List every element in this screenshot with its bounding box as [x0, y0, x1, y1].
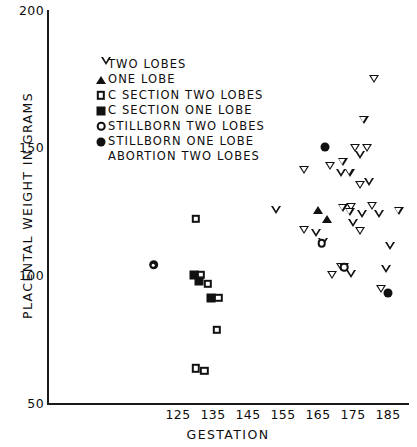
triangle-down-open-icon — [355, 181, 365, 189]
square-open-icon — [214, 294, 222, 302]
chart-legend: TWO LOBESONE LOBEC SECTION TWO LOBESC SE… — [94, 57, 265, 165]
triangle-down-open-icon — [327, 271, 337, 279]
legend-item-label: C SECTION ONE LOBE — [108, 105, 253, 117]
circle-filled-icon — [94, 135, 108, 149]
triangle-down-open-icon — [325, 162, 335, 170]
triangle-down-open-icon — [362, 144, 372, 152]
y-axis-line — [47, 10, 49, 405]
square-open-icon — [191, 364, 199, 372]
square-filled-icon — [94, 104, 108, 118]
triangle-down-open-icon — [355, 227, 365, 235]
square-filled-icon — [195, 277, 204, 286]
triangle-down-open-icon — [299, 166, 309, 174]
y-axis-title: PLACENTAL WEIGHT IN GRAMS — [20, 86, 35, 326]
y-tick-label-200: 200 — [4, 3, 44, 18]
x-tick-label-185: 185 — [368, 407, 408, 422]
triangle-down-open-icon — [385, 242, 395, 250]
legend-item-label: ONE LOBE — [108, 74, 176, 86]
circle-open-icon — [317, 239, 326, 248]
legend-item-c-section-two-lobes: C SECTION TWO LOBES — [94, 88, 265, 103]
triangle-down-open-icon — [367, 202, 377, 210]
triangle-down-open-icon — [94, 58, 108, 72]
triangle-down-open-icon — [299, 226, 309, 234]
triangle-down-open-icon — [338, 204, 348, 212]
circle-open-icon — [340, 263, 349, 272]
x-tick-label-145: 145 — [228, 407, 268, 422]
legend-item-label: TWO LOBES — [108, 59, 187, 71]
legend-item-one-lobe: ONE LOBE — [94, 72, 265, 87]
triangle-down-open-icon — [381, 265, 391, 273]
x-axis-line — [47, 403, 409, 405]
triangle-down-open-icon — [359, 116, 369, 124]
x-axis-title: GESTATION — [47, 427, 409, 442]
triangle-down-open-icon — [346, 203, 356, 211]
square-filled-icon — [207, 294, 216, 303]
triangle-down-open-icon — [374, 210, 384, 218]
x-tick-label-165: 165 — [298, 407, 338, 422]
square-open-icon — [200, 367, 208, 375]
triangle-down-open-icon — [336, 169, 346, 177]
triangle-down-open-icon — [338, 158, 348, 166]
triangle-down-open-icon — [345, 169, 355, 177]
triangle-down-open-icon — [346, 270, 356, 278]
triangle-down-open-icon — [350, 144, 360, 152]
legend-item-stillborn-two-lobes: STILLBORN TWO LOBES — [94, 119, 265, 134]
triangle-down-open-icon — [271, 206, 281, 214]
x-tick-label-125: 125 — [158, 407, 198, 422]
x-tick-label-155: 155 — [263, 407, 303, 422]
triangle-down-open-icon — [364, 178, 374, 186]
circle-dot-icon — [94, 150, 108, 164]
legend-item-label: STILLBORN TWO LOBES — [108, 121, 265, 133]
triangle-up-filled-icon — [94, 73, 108, 87]
triangle-up-filled-icon — [322, 215, 332, 223]
circle-filled-icon — [321, 143, 330, 152]
triangle-down-open-icon — [345, 208, 355, 216]
legend-item-abortion-two-lobes: ABORTION TWO LOBES — [94, 149, 265, 164]
x-tick-label-175: 175 — [333, 407, 373, 422]
triangle-down-open-icon — [339, 263, 349, 271]
legend-item-c-section-one-lobe: C SECTION ONE LOBE — [94, 103, 265, 118]
square-open-icon — [94, 88, 108, 102]
triangle-down-open-icon — [357, 210, 367, 218]
circle-dot-icon — [149, 260, 159, 270]
square-open-icon — [191, 214, 199, 222]
legend-item-two-lobes: TWO LOBES — [94, 57, 265, 72]
legend-item-stillborn-one-lobe: STILLBORN ONE LOBE — [94, 134, 265, 149]
square-open-icon — [204, 280, 212, 288]
square-filled-icon — [189, 271, 198, 280]
circle-open-icon — [94, 119, 108, 133]
triangle-down-open-icon — [355, 151, 365, 159]
triangle-down-open-icon — [336, 263, 346, 271]
x-tick-label-135: 135 — [193, 407, 233, 422]
scatter-plot-figure: 200 150 100 50 125 135 145 155 165 175 1… — [0, 0, 417, 447]
legend-item-label: STILLBORN ONE LOBE — [108, 136, 254, 148]
triangle-down-open-icon — [348, 219, 358, 227]
circle-filled-icon — [384, 288, 393, 297]
square-open-icon — [197, 271, 205, 279]
legend-item-label: C SECTION TWO LOBES — [108, 90, 264, 102]
triangle-down-open-icon — [376, 285, 386, 293]
triangle-up-filled-icon — [313, 206, 323, 214]
y-tick-label-50: 50 — [4, 396, 44, 411]
triangle-down-open-icon — [394, 207, 404, 215]
triangle-down-open-icon — [318, 238, 328, 246]
triangle-down-open-icon — [311, 229, 321, 237]
square-open-icon — [212, 326, 220, 334]
triangle-down-open-icon — [369, 75, 379, 83]
legend-item-label: ABORTION TWO LOBES — [108, 151, 260, 163]
